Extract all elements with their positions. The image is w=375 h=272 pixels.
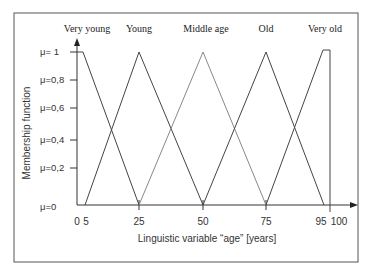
x-axis-arrow-icon xyxy=(350,202,358,208)
set-label-young: Young xyxy=(126,23,152,34)
y-tick-label-0-6: μ=0,6 xyxy=(40,102,64,113)
set-label-middle-age: Middle age xyxy=(183,23,229,34)
y-tick-label-0-8: μ=0,8 xyxy=(40,74,64,85)
x-tick-label-95: 95 xyxy=(315,216,327,227)
x-tick-label-50: 50 xyxy=(197,216,209,227)
y-ticks xyxy=(70,52,77,168)
y-axis-title: Membership function xyxy=(21,87,32,180)
set-label-very-young: Very young xyxy=(64,23,110,34)
membership-chart: Very young Young Middle age Old Very old… xyxy=(0,0,375,272)
x-tick-label-25: 25 xyxy=(133,216,145,227)
set-label-very-old: Very old xyxy=(308,23,342,34)
x-tick-label-0: 0 xyxy=(74,216,80,227)
series-very-old xyxy=(266,50,330,212)
series-young xyxy=(85,52,203,205)
series-middle-age xyxy=(139,52,266,205)
y-tick-label-0-4: μ=0,4 xyxy=(40,134,64,145)
y-tick-label-0: μ=0 xyxy=(40,201,56,212)
series-very-young xyxy=(77,52,139,205)
x-tick-label-100: 100 xyxy=(331,216,348,227)
y-tick-label-1: μ= 1 xyxy=(40,46,59,57)
set-label-old: Old xyxy=(259,23,274,34)
x-axis-title: Linguistic variable “age” [years] xyxy=(138,233,277,244)
chart-frame xyxy=(14,13,358,262)
y-axis-arrow-icon xyxy=(74,38,80,46)
x-tick-label-75: 75 xyxy=(260,216,272,227)
y-tick-label-0-2: μ=0,2 xyxy=(40,162,64,173)
x-tick-label-5: 5 xyxy=(83,216,89,227)
series-old xyxy=(203,52,324,205)
